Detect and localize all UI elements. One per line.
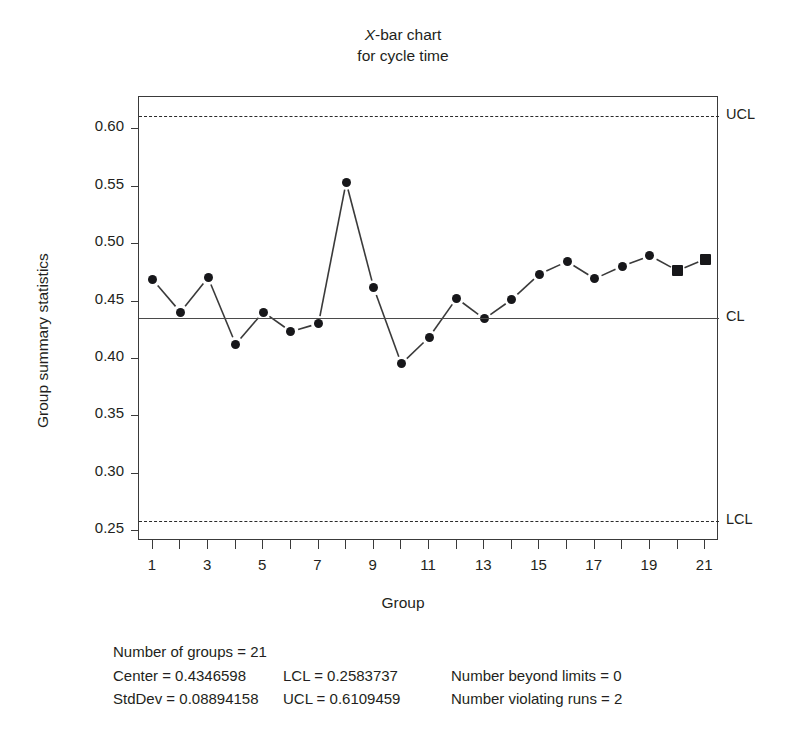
control-limit-label-lcl: LCL bbox=[726, 511, 753, 527]
x-axis-tick bbox=[704, 540, 705, 549]
data-point bbox=[259, 308, 268, 317]
x-axis-tick-label: 13 bbox=[458, 556, 508, 573]
y-axis-tick-label: 0.40 bbox=[95, 347, 124, 364]
series-segment bbox=[602, 269, 616, 275]
chart-title-line1: X-bar chart bbox=[0, 24, 806, 45]
x-axis-tick bbox=[456, 540, 457, 549]
y-axis-tick-label: 0.45 bbox=[95, 290, 124, 307]
data-point-violating bbox=[672, 265, 683, 276]
stat-number-of-groups: Number of groups = 21 bbox=[113, 640, 283, 664]
x-axis-tick bbox=[428, 540, 429, 549]
x-axis-tick bbox=[538, 540, 539, 549]
data-point bbox=[425, 333, 434, 342]
x-axis-tick bbox=[345, 540, 346, 549]
y-axis-tick bbox=[131, 301, 139, 302]
series-segment bbox=[407, 343, 424, 359]
y-axis-tick bbox=[131, 415, 139, 416]
plot-inner bbox=[139, 97, 717, 539]
stat-lcl: LCL = 0.2583737 bbox=[283, 664, 451, 688]
data-point bbox=[452, 294, 461, 303]
series-segment bbox=[241, 318, 259, 339]
y-axis-tick bbox=[131, 358, 139, 359]
stat-ucl: UCL = 0.6109459 bbox=[283, 687, 451, 711]
x-axis-tick-label: 3 bbox=[182, 556, 232, 573]
x-axis-tick bbox=[207, 540, 208, 549]
series-segment bbox=[158, 286, 176, 307]
data-point bbox=[314, 319, 323, 328]
x-axis-tick bbox=[677, 540, 678, 549]
series-segment bbox=[348, 189, 372, 280]
x-axis-tick-label: 1 bbox=[127, 556, 177, 573]
x-axis-tick-label: 21 bbox=[679, 556, 729, 573]
y-axis-tick bbox=[131, 128, 139, 129]
series-segment bbox=[517, 279, 534, 294]
series-segment bbox=[463, 303, 479, 315]
x-axis-title: Group bbox=[0, 594, 806, 612]
x-axis-tick-label: 19 bbox=[624, 556, 674, 573]
x-axis-tick bbox=[235, 540, 236, 549]
x-axis-tick-label: 11 bbox=[403, 556, 453, 573]
data-point bbox=[204, 273, 213, 282]
series-segment bbox=[657, 259, 671, 267]
chart-title: X-bar chart for cycle time bbox=[0, 24, 806, 66]
x-axis-tick bbox=[621, 540, 622, 549]
y-axis-tick-label: 0.50 bbox=[95, 232, 124, 249]
stat-beyond-limits: Number beyond limits = 0 bbox=[451, 664, 711, 688]
stat-violating-runs: Number violating runs = 2 bbox=[451, 687, 711, 711]
chart-title-x-symbol: X bbox=[365, 26, 375, 43]
chart-title-line2: for cycle time bbox=[0, 45, 806, 66]
y-axis-tick-label: 0.60 bbox=[95, 117, 124, 134]
y-axis-tick-label: 0.55 bbox=[95, 175, 124, 192]
x-axis-tick-label: 5 bbox=[237, 556, 287, 573]
y-axis-title: Group summary statistics bbox=[34, 253, 52, 428]
plot-area bbox=[138, 96, 718, 540]
x-axis-tick bbox=[318, 540, 319, 549]
x-axis-tick-label: 7 bbox=[293, 556, 343, 573]
x-axis-tick bbox=[566, 540, 567, 549]
control-limit-line-lcl bbox=[139, 521, 719, 522]
stat-stddev: StdDev = 0.08894158 bbox=[113, 687, 283, 711]
x-axis-tick bbox=[290, 540, 291, 549]
control-limit-label-ucl: UCL bbox=[726, 106, 755, 122]
x-axis-tick-label: 9 bbox=[348, 556, 398, 573]
x-axis-tick-label: 15 bbox=[513, 556, 563, 573]
y-axis-tick bbox=[131, 473, 139, 474]
data-point-violating bbox=[700, 254, 711, 265]
data-point bbox=[535, 270, 544, 279]
series-segment bbox=[320, 190, 345, 317]
series-segment bbox=[185, 283, 203, 306]
series-segment bbox=[684, 262, 698, 268]
y-axis-tick bbox=[131, 186, 139, 187]
x-axis-tick bbox=[511, 540, 512, 549]
x-axis-tick-label: 17 bbox=[569, 556, 619, 573]
x-axis-tick bbox=[400, 540, 401, 549]
x-axis-tick bbox=[262, 540, 263, 549]
series-segment bbox=[629, 258, 643, 263]
statistics-block: Number of groups = 21 Center = 0.4346598… bbox=[113, 640, 711, 711]
y-axis-tick-label: 0.30 bbox=[95, 462, 124, 479]
data-point bbox=[176, 308, 185, 317]
x-axis-tick bbox=[649, 540, 650, 549]
series-segment bbox=[573, 265, 588, 274]
data-point bbox=[563, 257, 572, 266]
control-limit-line-cl bbox=[139, 318, 719, 319]
series-segment bbox=[546, 265, 560, 271]
stats-row-stddev: StdDev = 0.08894158 UCL = 0.6109459 Numb… bbox=[113, 687, 711, 711]
x-axis-tick bbox=[483, 540, 484, 549]
series-segment bbox=[298, 326, 311, 330]
y-axis-tick-label: 0.25 bbox=[95, 519, 124, 536]
x-axis-tick bbox=[594, 540, 595, 549]
x-axis-tick bbox=[179, 540, 180, 549]
data-point bbox=[231, 340, 240, 349]
control-limit-label-cl: CL bbox=[726, 308, 745, 324]
x-axis-tick bbox=[373, 540, 374, 549]
series-segment bbox=[211, 285, 233, 338]
stat-center: Center = 0.4346598 bbox=[113, 664, 283, 688]
x-axis-tick bbox=[152, 540, 153, 549]
chart-title-line1-text: -bar chart bbox=[375, 26, 441, 43]
y-axis-tick-label: 0.35 bbox=[95, 404, 124, 421]
stats-row-groups: Number of groups = 21 bbox=[113, 640, 711, 664]
series-segment bbox=[490, 304, 505, 315]
data-point bbox=[342, 178, 351, 187]
chart-page: X-bar chart for cycle time Group summary… bbox=[0, 0, 806, 738]
